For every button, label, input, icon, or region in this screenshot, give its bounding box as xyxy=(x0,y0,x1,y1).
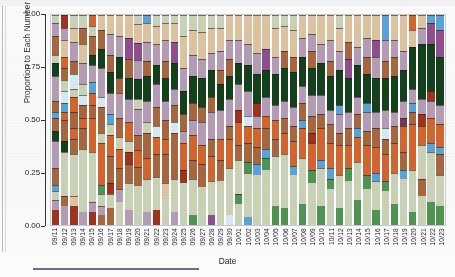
bar-segment xyxy=(61,40,68,57)
bar-column[interactable] xyxy=(371,15,380,225)
bar-column[interactable] xyxy=(143,15,152,225)
bar-segment xyxy=(409,30,416,47)
bar-segment xyxy=(354,65,361,97)
bar-segment xyxy=(317,95,324,114)
bar-column[interactable] xyxy=(225,15,234,225)
bar-segment xyxy=(162,196,169,225)
bar-segment xyxy=(281,101,288,118)
x-tick-label: 10/08 xyxy=(300,228,307,246)
bar-column[interactable] xyxy=(289,15,298,225)
bar-column[interactable] xyxy=(234,15,243,225)
bar-column[interactable] xyxy=(344,15,353,225)
bar-segment xyxy=(198,78,205,107)
bar-segment xyxy=(134,186,141,225)
bar-segment xyxy=(400,126,407,151)
bar-segment xyxy=(391,143,398,172)
bar-column[interactable] xyxy=(216,15,225,225)
bar-column[interactable] xyxy=(408,15,417,225)
bar-segment xyxy=(61,91,68,104)
x-tick-label: 10/20 xyxy=(410,228,417,246)
bar-segment xyxy=(317,15,324,44)
bar-segment xyxy=(281,118,288,133)
bar-segment xyxy=(409,112,416,125)
bar-column[interactable] xyxy=(335,15,344,225)
bar-segment xyxy=(262,128,269,149)
bar-segment xyxy=(436,154,443,175)
bar-column[interactable] xyxy=(298,15,307,225)
bar-segment xyxy=(116,202,123,225)
bar-segment xyxy=(409,124,416,170)
x-tick-label: 10/03 xyxy=(254,228,261,246)
bar-column[interactable] xyxy=(207,15,216,225)
bar-segment xyxy=(89,55,96,66)
bar-segment xyxy=(198,187,205,225)
bar-segment xyxy=(372,112,379,129)
bar-segment xyxy=(107,124,114,135)
bar-column[interactable] xyxy=(353,15,362,225)
bar-column[interactable] xyxy=(69,15,78,225)
bar-segment xyxy=(226,40,233,59)
bar-segment xyxy=(52,141,59,168)
x-tick-label: 10/07 xyxy=(291,228,298,246)
bar-column[interactable] xyxy=(417,15,426,225)
bar-segment xyxy=(244,217,251,225)
bar-segment xyxy=(52,200,59,211)
bar-column[interactable] xyxy=(152,15,161,225)
bar-segment xyxy=(125,78,132,99)
bar-segment xyxy=(272,206,279,225)
bar-column[interactable] xyxy=(88,15,97,225)
bar-column[interactable] xyxy=(124,15,133,225)
bar-segment xyxy=(171,133,178,179)
bar-column[interactable] xyxy=(252,15,261,225)
bar-column[interactable] xyxy=(188,15,197,225)
bar-segment xyxy=(107,15,114,34)
bar-column[interactable] xyxy=(280,15,289,225)
bar-column[interactable] xyxy=(115,15,124,225)
bar-column[interactable] xyxy=(426,15,435,225)
bar-segment xyxy=(61,57,68,68)
bar-segment xyxy=(70,112,77,129)
bar-segment xyxy=(400,15,407,51)
bar-segment xyxy=(262,15,269,49)
bar-column[interactable] xyxy=(381,15,390,225)
bar-column[interactable] xyxy=(60,15,69,225)
bar-segment xyxy=(317,114,324,129)
bar-column[interactable] xyxy=(51,15,60,225)
bar-segment xyxy=(308,143,315,170)
bar-segment xyxy=(153,210,160,225)
bar-column[interactable] xyxy=(198,15,207,225)
bar-segment xyxy=(253,164,260,175)
bar-column[interactable] xyxy=(326,15,335,225)
bar-segment xyxy=(208,15,215,28)
bar-segment xyxy=(336,15,343,28)
bar-column[interactable] xyxy=(399,15,408,225)
bar-column[interactable] xyxy=(390,15,399,225)
x-tick-label: 10/15 xyxy=(364,228,371,246)
bar-segment xyxy=(327,15,334,40)
bar-column[interactable] xyxy=(97,15,106,225)
bar-column[interactable] xyxy=(243,15,252,225)
x-tick-label: 10/11 xyxy=(328,228,335,245)
bar-segment xyxy=(70,97,77,112)
x-tick-label: 10/14 xyxy=(355,228,362,246)
bar-segment xyxy=(235,204,242,225)
bar-column[interactable] xyxy=(170,15,179,225)
bar-segment xyxy=(391,15,398,40)
bar-column[interactable] xyxy=(161,15,170,225)
bar-column[interactable] xyxy=(436,15,445,225)
bar-segment xyxy=(208,28,215,53)
bar-column[interactable] xyxy=(106,15,115,225)
bar-column[interactable] xyxy=(307,15,316,225)
bar-segment xyxy=(217,84,224,109)
bar-column[interactable] xyxy=(133,15,142,225)
bar-segment xyxy=(272,74,279,106)
bar-column[interactable] xyxy=(179,15,188,225)
bar-segment xyxy=(400,170,407,178)
bar-column[interactable] xyxy=(262,15,271,225)
bar-column[interactable] xyxy=(271,15,280,225)
bar-segment xyxy=(134,150,141,167)
bar-segment xyxy=(89,82,96,93)
bar-column[interactable] xyxy=(317,15,326,225)
bar-column[interactable] xyxy=(78,15,87,225)
bar-column[interactable] xyxy=(362,15,371,225)
